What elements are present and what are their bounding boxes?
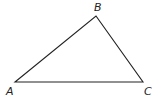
vertex-label-b: B [94, 1, 102, 14]
triangle-diagram: A B C [0, 0, 152, 103]
vertex-label-a: A [5, 85, 14, 98]
vertex-label-c: C [144, 85, 152, 98]
triangle-abc [15, 16, 143, 82]
